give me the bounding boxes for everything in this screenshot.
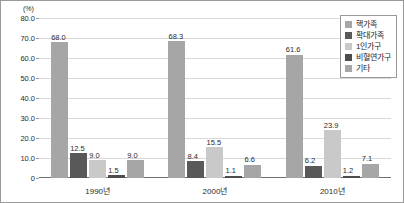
- bar[interactable]: [362, 164, 379, 178]
- bar-column[interactable]: 6.6: [244, 18, 261, 178]
- bar[interactable]: [305, 166, 322, 178]
- bar-value-label: 8.4: [187, 153, 197, 161]
- y-axis-tick-label: 50.0: [20, 74, 35, 83]
- bar-value-label: 68.0: [51, 34, 66, 42]
- bar-column[interactable]: 6.2: [305, 18, 322, 178]
- bar[interactable]: [286, 55, 303, 178]
- bar-value-label: 15.5: [206, 139, 221, 147]
- y-axis-tick-label: 30.0: [20, 114, 35, 123]
- bar-value-label: 9.0: [127, 152, 137, 160]
- legend-swatch-icon: [345, 65, 352, 72]
- legend-swatch-icon: [345, 54, 352, 61]
- y-axis-tick-label: 0: [31, 174, 35, 183]
- bar-value-label: 1.2: [343, 167, 353, 175]
- legend-item[interactable]: 핵가족: [345, 19, 391, 30]
- y-axis-unit-label: (%): [23, 5, 34, 12]
- bar-group: 68.012.59.01.59.01990년: [39, 18, 156, 178]
- plot-area: 010.020.030.040.050.060.070.080.0 68.012…: [39, 18, 391, 178]
- legend-item[interactable]: 1인가구: [345, 41, 391, 52]
- bar-column[interactable]: 1.1: [225, 18, 242, 178]
- bar-column[interactable]: 8.4: [187, 18, 204, 178]
- y-axis-tick-label: 10.0: [20, 154, 35, 163]
- bar[interactable]: [127, 160, 144, 178]
- legend-label: 핵가족: [356, 21, 377, 29]
- bar-column[interactable]: 68.0: [51, 18, 68, 178]
- bar-value-label: 61.6: [286, 46, 301, 54]
- legend-item[interactable]: 비혈연가구: [345, 52, 391, 63]
- bar[interactable]: [89, 160, 106, 178]
- y-axis-tick-label: 20.0: [20, 134, 35, 143]
- bar-column[interactable]: 15.5: [206, 18, 223, 178]
- legend-label: 비혈연가구: [356, 54, 391, 62]
- y-axis-tick-label: 40.0: [20, 94, 35, 103]
- bar-column[interactable]: 9.0: [89, 18, 106, 178]
- bar[interactable]: [70, 153, 87, 178]
- bar-chart-figure: (%) 010.020.030.040.050.060.070.080.0 68…: [0, 0, 404, 203]
- bar-column[interactable]: 23.9: [324, 18, 341, 178]
- bar-value-label: 23.9: [324, 122, 339, 130]
- x-axis-tick-label: 2010년: [274, 185, 391, 196]
- bar-column[interactable]: 1.5: [108, 18, 125, 178]
- bar[interactable]: [244, 165, 261, 178]
- bar-value-label: 1.5: [108, 167, 118, 175]
- bar-group: 68.38.415.51.16.62000년: [156, 18, 273, 178]
- y-axis-tick-mark: [36, 178, 39, 179]
- bar-value-label: 6.2: [305, 157, 315, 165]
- legend-swatch-icon: [345, 21, 352, 28]
- bar[interactable]: [225, 176, 242, 178]
- chart-legend: 핵가족확대가족1인가구비혈연가구기타: [340, 15, 397, 78]
- bar-column[interactable]: 61.6: [286, 18, 303, 178]
- y-axis-tick-label: 60.0: [20, 54, 35, 63]
- bar[interactable]: [324, 130, 341, 178]
- x-axis-tick-label: 1990년: [39, 185, 156, 196]
- y-axis-tick-label: 80.0: [20, 14, 35, 23]
- bar-value-label: 1.1: [225, 167, 235, 175]
- bar-value-label: 6.6: [244, 156, 254, 164]
- legend-label: 기타: [356, 65, 370, 73]
- legend-item[interactable]: 기타: [345, 63, 391, 74]
- bar[interactable]: [206, 147, 223, 178]
- legend-label: 1인가구: [356, 43, 381, 51]
- bar-column[interactable]: 9.0: [127, 18, 144, 178]
- legend-swatch-icon: [345, 32, 352, 39]
- legend-item[interactable]: 확대가족: [345, 30, 391, 41]
- bar-value-label: 68.3: [168, 33, 183, 41]
- bar-value-label: 12.5: [70, 145, 85, 153]
- legend-label: 확대가족: [356, 32, 384, 40]
- bar[interactable]: [51, 42, 68, 178]
- bar-column[interactable]: 68.3: [168, 18, 185, 178]
- x-axis-tick-label: 2000년: [156, 185, 273, 196]
- bar[interactable]: [108, 175, 125, 178]
- y-axis-tick-label: 70.0: [20, 34, 35, 43]
- bar[interactable]: [343, 176, 360, 178]
- bar[interactable]: [168, 41, 185, 178]
- bar-column[interactable]: 12.5: [70, 18, 87, 178]
- legend-swatch-icon: [345, 43, 352, 50]
- bar-value-label: 9.0: [89, 152, 99, 160]
- bar[interactable]: [187, 161, 204, 178]
- bar-value-label: 7.1: [362, 155, 372, 163]
